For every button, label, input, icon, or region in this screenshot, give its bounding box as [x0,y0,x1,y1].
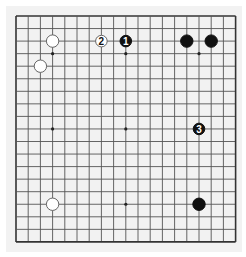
black-stone[interactable] [193,198,205,210]
white-stone[interactable] [34,60,46,72]
star-point [197,52,200,55]
go-board[interactable]: 213 [0,0,246,257]
move-number-label: 1 [123,36,129,47]
star-point [124,203,127,206]
star-point [124,127,127,130]
black-stone[interactable] [181,35,193,47]
black-stone[interactable] [205,35,217,47]
star-point [124,52,127,55]
star-point [51,52,54,55]
move-number-label: 2 [99,36,105,47]
white-stone[interactable] [46,35,58,47]
move-number-label: 3 [196,124,202,135]
white-stone[interactable] [46,198,58,210]
star-point [51,127,54,130]
